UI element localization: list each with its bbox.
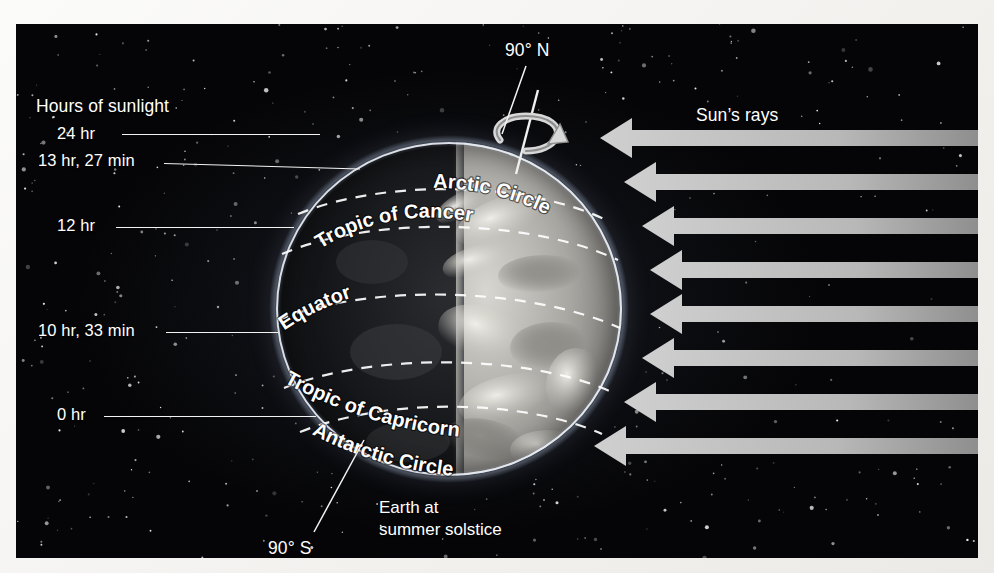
leader-line-10hr33min (166, 332, 278, 333)
sun-ray-arrow (624, 162, 978, 202)
caption-line-1: Earth at (379, 497, 502, 519)
hours-label-24hr: 24 hr (57, 124, 95, 143)
sun-ray-arrow (600, 118, 978, 158)
sun-rays-group (556, 84, 978, 484)
suns-rays-label: Sun’s rays (696, 105, 778, 126)
sun-ray-arrow (642, 338, 978, 378)
label-tropic-of-cancer: Tropic of Cancer (311, 200, 475, 253)
sun-ray-arrow (624, 382, 978, 422)
ray-arrows (594, 118, 978, 466)
space-scene: Arctic Circle Tropic of Cancer Equator T… (16, 24, 978, 558)
hours-of-sunlight-title: Hours of sunlight (36, 96, 169, 117)
sun-ray-arrow (642, 206, 978, 246)
label-equator: Equator (274, 280, 353, 333)
sun-ray-arrow (650, 294, 978, 334)
north-pole-leader (496, 60, 576, 140)
hours-label-13hr27min: 13 hr, 27 min (38, 151, 135, 170)
caption-line-2: summer solstice (379, 519, 502, 541)
north-pole-label: 90° N (505, 40, 549, 61)
figure-caption: Earth at summer solstice (379, 497, 502, 541)
hours-label-10hr33min: 10 hr, 33 min (38, 321, 135, 340)
hours-label-0hr: 0 hr (57, 405, 86, 424)
leader-line-0hr (104, 416, 316, 417)
label-tropic-of-capricorn: Tropic of Capricorn (282, 366, 461, 440)
leader-line-24hr (122, 134, 320, 135)
sun-ray-arrow (594, 426, 978, 466)
figure-root: Arctic Circle Tropic of Cancer Equator T… (0, 0, 994, 573)
hours-label-12hr: 12 hr (57, 216, 95, 235)
sun-ray-arrow (650, 250, 978, 290)
leader-line-12hr (116, 227, 294, 228)
